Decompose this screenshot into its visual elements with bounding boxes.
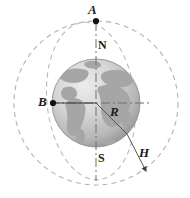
label-point-a: A <box>88 3 97 16</box>
label-north-pole: N <box>98 39 107 51</box>
point-a-marker <box>93 18 99 24</box>
figure-canvas <box>0 0 190 198</box>
point-b-marker <box>50 100 56 106</box>
label-radius: R <box>110 105 119 118</box>
orbit-diagram-figure: A B N S R H <box>0 0 190 198</box>
label-altitude: H <box>139 146 149 159</box>
label-point-b: B <box>38 95 47 108</box>
label-south-pole: S <box>98 152 105 164</box>
